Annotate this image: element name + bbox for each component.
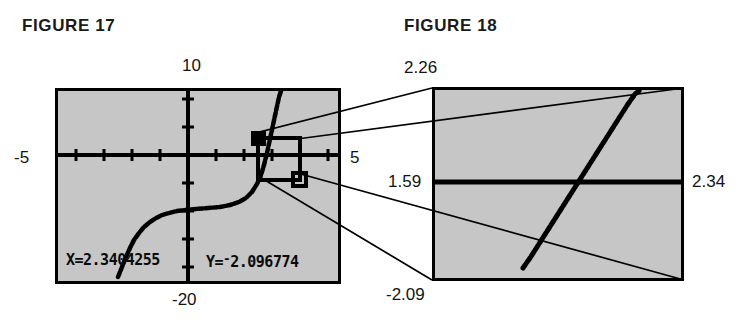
fig17-readout-y: Y=-2.096774 bbox=[206, 251, 299, 271]
fig18-plot bbox=[435, 90, 681, 278]
fig17-readout-x: X=2.3404255 bbox=[66, 251, 160, 269]
figure-17-calculator-screen: X=2.3404255 Y=-2.096774 bbox=[55, 88, 341, 284]
fig17-x-axis bbox=[58, 149, 338, 161]
figure-18-calculator-screen bbox=[432, 87, 684, 281]
fig18-label-right: 2.34 bbox=[692, 172, 725, 192]
fig17-readout-x-value: 2.3404255 bbox=[83, 251, 160, 269]
fig17-label-top: 10 bbox=[182, 56, 201, 76]
figure-18-title: FIGURE 18 bbox=[404, 16, 497, 36]
fig18-curve bbox=[523, 90, 640, 268]
fig17-zoom-box bbox=[251, 131, 306, 186]
fig17-label-bottom: -20 bbox=[172, 290, 197, 310]
fig17-label-left: -5 bbox=[14, 148, 29, 168]
fig17-y-axis bbox=[182, 91, 194, 281]
fig17-readout-y-value: 2.096774 bbox=[230, 253, 298, 271]
fig17-readout-x-label: X= bbox=[66, 251, 83, 269]
fig17-readout-y-label: Y= bbox=[206, 253, 223, 271]
fig17-curve bbox=[118, 91, 281, 277]
fig18-label-left: 1.59 bbox=[388, 172, 421, 192]
fig17-label-right: 5 bbox=[350, 148, 359, 168]
fig18-label-bottom: -2.09 bbox=[386, 285, 425, 305]
figure-17-title: FIGURE 17 bbox=[22, 16, 115, 36]
fig18-label-top: 2.26 bbox=[404, 58, 437, 78]
